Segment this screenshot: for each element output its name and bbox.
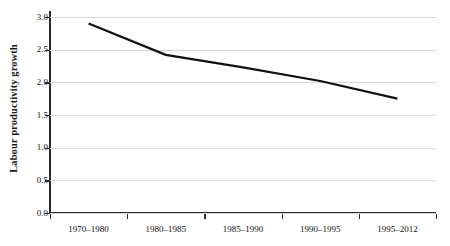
x-axis-category-label: 1970–1980 bbox=[68, 224, 109, 234]
x-axis-tick-mark bbox=[204, 214, 205, 219]
x-axis-tick-mark bbox=[50, 214, 51, 219]
plot-area bbox=[50, 17, 436, 213]
line-series bbox=[50, 17, 436, 213]
y-axis-tick-labels: 0.00.51.01.52.02.53.0 bbox=[22, 0, 48, 220]
x-axis-category-label: 1995–2012 bbox=[377, 224, 418, 234]
gridline bbox=[50, 213, 436, 214]
chart-container: Labour productivity growth 0.00.51.01.52… bbox=[0, 0, 450, 246]
series-labour-productivity-growth bbox=[89, 24, 398, 99]
x-axis-tick-mark bbox=[359, 214, 360, 219]
x-axis-tick-mark bbox=[127, 214, 128, 219]
x-axis-category-label: 1980–1985 bbox=[146, 224, 187, 234]
x-axis-category-label: 1990–1995 bbox=[300, 224, 341, 234]
x-axis-tick-mark bbox=[282, 214, 283, 219]
x-axis-category-label: 1985–1990 bbox=[223, 224, 264, 234]
x-axis-tick-mark bbox=[436, 214, 437, 219]
y-axis-title-text: Labour productivity growth bbox=[8, 44, 19, 173]
